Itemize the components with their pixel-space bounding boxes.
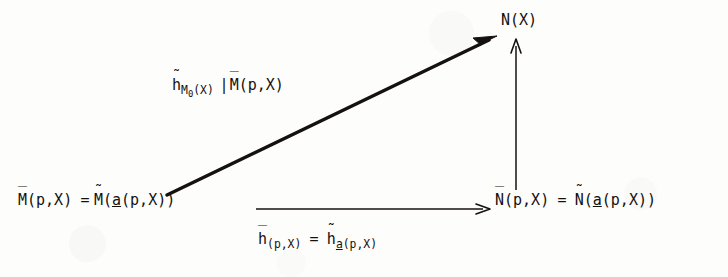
diag-restricted-args: (p,X)	[239, 78, 284, 93]
diag-sub-index: 0	[188, 90, 193, 99]
diag-restricted-m-bar: ‾ M	[230, 78, 239, 93]
horz-lhs-subscript: (p,X)	[267, 239, 301, 250]
n-bar-args: (p,X)	[504, 193, 549, 208]
m-tilde-close-paren: )	[166, 193, 175, 208]
edge-diagonal-line	[167, 40, 489, 195]
edge-label-diagonal: ˜ h M0(X) | ‾ M (p,X)	[172, 78, 284, 93]
edge-label-horizontal: ‾ h (p,X) = ˜ h a(p,X)	[258, 232, 377, 247]
n-tilde-close-paren: )	[647, 193, 656, 208]
m-bar-args: (p,X)	[27, 193, 72, 208]
diag-sub-args: (X)	[193, 83, 214, 97]
node-n-bar: ‾ N (p,X) = ˜ N (a(p,X))	[495, 193, 656, 208]
nx-args: (X)	[510, 13, 537, 28]
edge-diagonal	[167, 36, 497, 195]
m-tilde-open-paren: (	[103, 193, 112, 208]
edge-horizontal	[256, 204, 490, 214]
m-inner-vector-a: a	[112, 193, 121, 208]
n-equals-sign: =	[557, 193, 566, 208]
node-n-of-x: N(X)	[501, 13, 537, 28]
horz-equals-sign: =	[310, 232, 319, 247]
m-equals-sign: =	[80, 193, 89, 208]
n-tilde-open-paren: (	[584, 193, 593, 208]
horz-rhs-sub-vector-a: a	[336, 237, 343, 251]
diagram-canvas: ‾ M (p,X) = ˜ M (a(p,X)) ‾ N (p,X) = ˜ N…	[0, 0, 728, 277]
nx-base: N	[501, 13, 510, 28]
m-inner-args: (p,X)	[121, 193, 166, 208]
horz-h-bar-symbol: ‾ h	[258, 232, 267, 247]
n-tilde-accented-symbol: ˜ N	[575, 193, 584, 208]
m-bar-accented-symbol: ‾ M	[18, 193, 27, 208]
n-inner-args: (p,X)	[602, 193, 647, 208]
restriction-bar: |	[218, 78, 229, 93]
diag-subscript: M0(X)	[181, 85, 214, 96]
horz-h-tilde-symbol: ˜ h	[327, 232, 336, 247]
n-bar-accented-symbol: ‾ N	[495, 193, 504, 208]
node-m-bar: ‾ M (p,X) = ˜ M (a(p,X))	[18, 193, 175, 208]
edge-vertical	[511, 39, 521, 190]
edge-diagonal-arrowhead	[470, 36, 497, 49]
diag-sub-base: M	[181, 83, 188, 97]
horz-rhs-subscript: a(p,X)	[336, 239, 377, 250]
n-inner-vector-a: a	[593, 193, 602, 208]
diag-h-tilde-symbol: ˜ h	[172, 78, 181, 93]
horz-rhs-sub-args: (p,X)	[343, 237, 377, 251]
m-tilde-accented-symbol: ˜ M	[94, 193, 103, 208]
